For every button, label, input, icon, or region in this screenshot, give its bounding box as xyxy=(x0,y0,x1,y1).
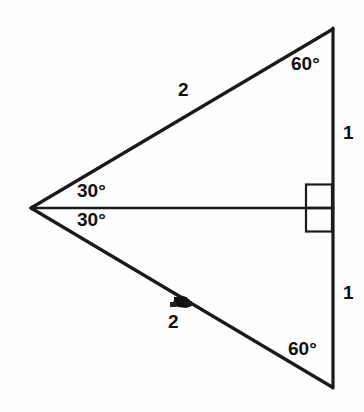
label-angle-bottom-right: 60° xyxy=(288,339,317,358)
label-side-top-hypotenuse: 2 xyxy=(178,80,189,99)
label-angle-top-right: 60° xyxy=(291,54,320,73)
ink-smudge-icon xyxy=(170,296,192,308)
right-angle-marker-lower xyxy=(306,208,332,232)
label-side-right-lower: 1 xyxy=(343,283,354,302)
label-angle-upper-left: 30° xyxy=(77,181,106,200)
label-side-bottom-hypotenuse: 2 xyxy=(168,312,179,331)
label-side-right-upper: 1 xyxy=(343,123,354,142)
label-angle-lower-left: 30° xyxy=(77,210,106,229)
right-angle-marker-upper xyxy=(306,185,332,209)
diagram-canvas: 60° 60° 30° 30° 2 2 1 1 xyxy=(0,0,364,412)
